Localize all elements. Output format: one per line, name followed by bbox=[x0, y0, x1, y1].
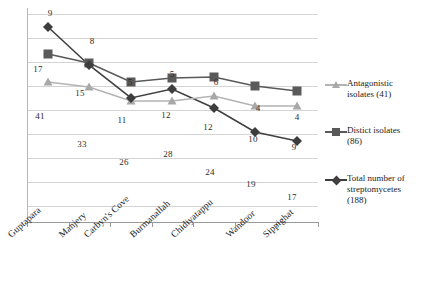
triangle-icon bbox=[332, 81, 340, 88]
legend-key-distict bbox=[325, 126, 347, 138]
square-icon bbox=[332, 128, 340, 136]
series-markers-total bbox=[43, 22, 302, 146]
data-label-total: 26 bbox=[119, 157, 128, 167]
series-plot bbox=[27, 8, 318, 222]
data-label-antagonistic: 5 bbox=[128, 77, 133, 87]
data-label-total: 41 bbox=[35, 111, 44, 121]
legend-key-total bbox=[325, 174, 347, 186]
series-line-total bbox=[48, 27, 297, 141]
data-label-antagonistic: 4 bbox=[256, 103, 261, 113]
x-axis-tick bbox=[110, 222, 111, 227]
x-axis-tick bbox=[318, 222, 319, 227]
chart-figure: 9 8 5 5 6 4 4 17 15 11 12 12 10 9 41 33 … bbox=[0, 0, 425, 296]
data-label-total: 17 bbox=[287, 192, 296, 202]
legend-label-total: Total number of streptomycetes (188) bbox=[347, 173, 405, 206]
legend-label-antagonistic: Antagonistic isolates (41) bbox=[347, 78, 393, 100]
data-label-distict: 15 bbox=[75, 88, 84, 98]
data-label-distict: 10 bbox=[248, 134, 257, 144]
data-label-antagonistic: 5 bbox=[170, 69, 175, 79]
data-label-antagonistic: 9 bbox=[48, 8, 53, 18]
data-label-distict: 17 bbox=[33, 64, 42, 74]
data-label-antagonistic: 6 bbox=[214, 77, 219, 87]
data-label-total: 33 bbox=[77, 139, 86, 149]
data-label-antagonistic: 4 bbox=[295, 112, 300, 122]
data-label-distict: 12 bbox=[161, 110, 170, 120]
data-label-total: 24 bbox=[205, 167, 214, 177]
data-label-antagonistic: 8 bbox=[90, 36, 95, 46]
diamond-icon bbox=[331, 175, 341, 185]
data-label-distict: 9 bbox=[292, 142, 297, 152]
legend-entry-distict[interactable]: Distict isolates (86) bbox=[325, 125, 425, 147]
legend-entry-antagonistic[interactable]: Antagonistic isolates (41) bbox=[325, 78, 425, 100]
legend-key-antagonistic bbox=[325, 79, 347, 91]
legend-entry-total[interactable]: Total number of streptomycetes (188) bbox=[325, 173, 425, 206]
data-label-total: 28 bbox=[163, 149, 172, 159]
data-label-total: 19 bbox=[246, 179, 255, 189]
data-label-distict: 11 bbox=[117, 115, 126, 125]
legend-label-distict: Distict isolates (86) bbox=[347, 125, 400, 147]
data-label-distict: 12 bbox=[203, 122, 212, 132]
